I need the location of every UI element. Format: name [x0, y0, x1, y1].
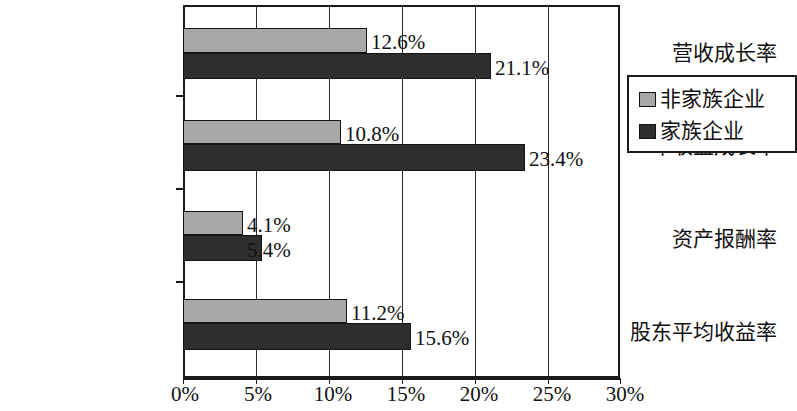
x-axis-tick-label: 20% — [460, 384, 499, 405]
bar-value-label: 23.4% — [529, 149, 583, 170]
category-label: 股东平均收益率 — [603, 322, 783, 343]
bar-non-family — [183, 211, 243, 235]
legend-label: 家族企业 — [660, 121, 744, 142]
bar-non-family — [183, 299, 347, 323]
bar-value-label: 21.1% — [495, 58, 549, 79]
bar-family — [183, 144, 525, 171]
x-axis-tick-label: 30% — [606, 384, 645, 405]
bar-non-family — [183, 28, 367, 53]
bar-value-label: 11.2% — [351, 303, 404, 324]
bar-value-label: 10.8% — [345, 124, 399, 145]
bar-family — [183, 323, 411, 350]
x-axis-tick-label: 10% — [314, 384, 353, 405]
y-axis-tick — [176, 281, 185, 283]
legend-swatch-icon — [639, 124, 656, 139]
legend-swatch-icon — [639, 92, 656, 107]
x-axis-tick-label: 15% — [387, 384, 426, 405]
category-label: 资产报酬率 — [603, 229, 783, 250]
bar-family — [183, 53, 491, 79]
legend-item-family: 家族企业 — [639, 115, 795, 147]
legend-item-non-family: 非家族企业 — [639, 83, 795, 115]
x-axis-tick-label: 25% — [533, 384, 572, 405]
x-axis-tick-label: 5% — [244, 384, 272, 405]
category-label: 营收成长率 — [603, 43, 783, 64]
x-axis-tick-label: 0% — [171, 384, 199, 405]
y-axis-tick — [176, 188, 185, 190]
y-axis-tick — [176, 95, 185, 97]
bar-value-label: 12.6% — [371, 32, 425, 53]
bar-value-label: 15.6% — [415, 328, 469, 349]
bar-non-family — [183, 120, 341, 144]
legend-label: 非家族企业 — [660, 89, 765, 110]
bar-value-label: 5.4% — [247, 240, 291, 261]
legend: 非家族企业 家族企业 — [627, 75, 797, 153]
bar-value-label: 4.1% — [247, 215, 291, 236]
